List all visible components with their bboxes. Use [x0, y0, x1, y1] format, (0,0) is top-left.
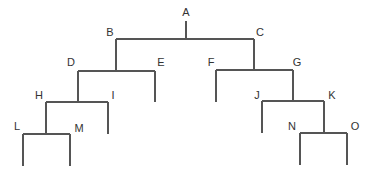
- node-label-c: C: [256, 26, 264, 38]
- node-label-e: E: [157, 56, 164, 68]
- node-label-j: J: [254, 89, 260, 101]
- node-label-d: D: [67, 56, 75, 68]
- node-label-h: H: [35, 89, 43, 101]
- node-label-b: B: [106, 26, 113, 38]
- tree-edges: [23, 21, 347, 166]
- node-label-n: N: [288, 120, 296, 132]
- node-label-i: I: [111, 89, 114, 101]
- node-label-a: A: [182, 6, 190, 18]
- node-label-f: F: [208, 56, 215, 68]
- node-label-l: L: [14, 120, 20, 132]
- node-label-k: K: [328, 89, 336, 101]
- node-label-g: G: [293, 56, 302, 68]
- node-label-o: O: [351, 120, 360, 132]
- tree-diagram: A B C D E F G H I J K L M N O: [0, 0, 371, 180]
- node-label-m: M: [74, 122, 83, 134]
- tree-labels: A B C D E F G H I J K L M N O: [14, 6, 360, 134]
